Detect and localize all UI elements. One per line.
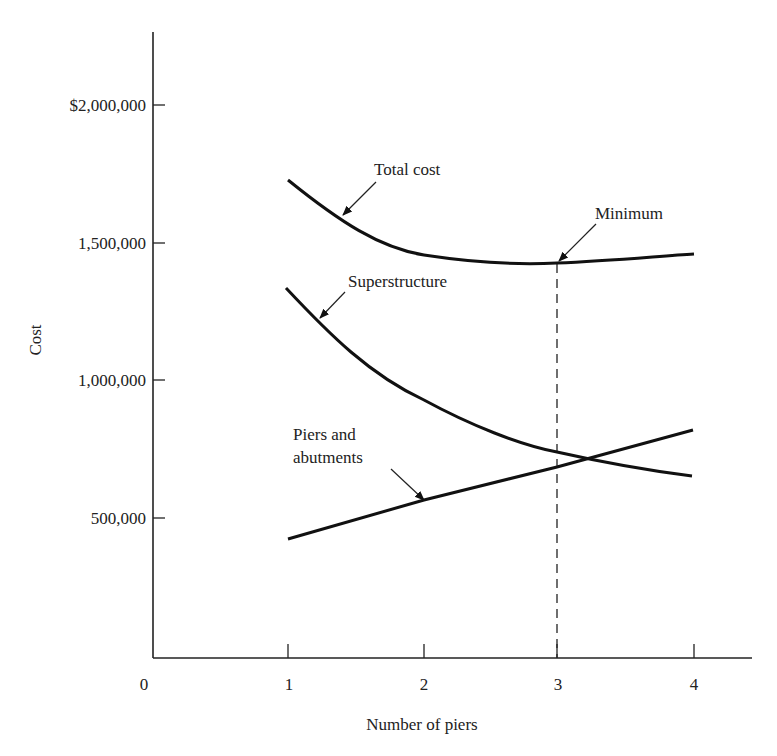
piers-arrow (391, 469, 424, 500)
y-tick-label: 1,500,000 (78, 234, 146, 253)
y-tick-label: 1,000,000 (78, 371, 146, 390)
piers-and-abutments-line (288, 430, 693, 539)
x-tick-label: 0 (140, 675, 149, 694)
cost-chart: $2,000,000 1,500,000 1,000,000 500,000 0… (0, 0, 777, 756)
y-tick-label: 500,000 (91, 509, 146, 528)
x-tick-label: 2 (420, 675, 429, 694)
x-tick-label: 3 (554, 675, 563, 694)
minimum-arrow (559, 224, 596, 261)
x-tick-label: 1 (285, 675, 294, 694)
piers-label-line2: abutments (293, 448, 363, 467)
y-ticks (153, 105, 165, 518)
superstructure-label: Superstructure (348, 272, 447, 291)
minimum-label: Minimum (595, 204, 663, 223)
x-ticks (288, 644, 694, 658)
superstructure-arrow (320, 292, 345, 318)
x-axis-title: Number of piers (366, 715, 477, 734)
total-cost-label: Total cost (374, 160, 441, 179)
total-cost-arrow (343, 182, 376, 215)
y-tick-label: $2,000,000 (70, 96, 147, 115)
piers-label-line1: Piers and (293, 425, 356, 444)
x-tick-label: 4 (690, 675, 699, 694)
y-axis-title: Cost (26, 324, 45, 355)
